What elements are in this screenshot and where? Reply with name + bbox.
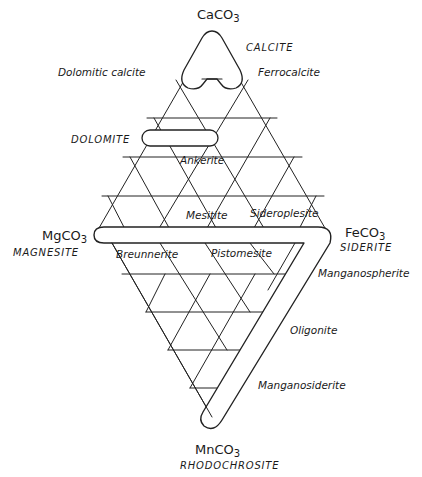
- vertex-left-formula: MgCO3: [42, 229, 87, 245]
- formula-subscript: 3: [233, 13, 239, 24]
- label-ankerite: Ankerite: [180, 155, 224, 166]
- dolomite-field: [142, 130, 218, 146]
- label-dolomitic-calcite: Dolomitic calcite: [58, 67, 146, 78]
- calcite-field: [182, 31, 243, 89]
- formula-text: MgCO: [42, 228, 81, 243]
- vertex-left-mineral: MAGNESITE: [13, 248, 79, 258]
- label-ferrocalcite: Ferrocalcite: [258, 67, 320, 78]
- label-mesitite: Mesitite: [186, 210, 228, 221]
- formula-subscript: 3: [379, 231, 385, 242]
- formula-text: MnCO: [195, 442, 234, 457]
- vertex-right-mineral: SIDERITE: [340, 243, 392, 253]
- label-breunnerite: Breunnerite: [116, 249, 178, 260]
- vertex-bottom-mineral: RHODOCHROSITE: [180, 461, 279, 471]
- vertex-right-formula: FeCO3: [345, 226, 385, 242]
- vertex-bottom-formula: MnCO3: [195, 443, 240, 459]
- label-dolomite: DOLOMITE: [71, 135, 130, 145]
- label-manganosiderite: Manganosiderite: [258, 380, 346, 391]
- formula-text: CaCO: [197, 7, 233, 22]
- formula-text: FeCO: [345, 225, 379, 240]
- vertex-top-mineral: CALCITE: [246, 43, 293, 53]
- label-oligonite: Oligonite: [290, 325, 337, 336]
- vertex-top-formula: CaCO3: [197, 8, 240, 24]
- formula-subscript: 3: [81, 234, 87, 245]
- label-manganospherite: Manganospherite: [318, 268, 409, 279]
- label-pistomesite: Pistomesite: [211, 248, 272, 259]
- label-sideroplesite: Sideroplesite: [250, 208, 318, 219]
- formula-subscript: 3: [234, 448, 240, 459]
